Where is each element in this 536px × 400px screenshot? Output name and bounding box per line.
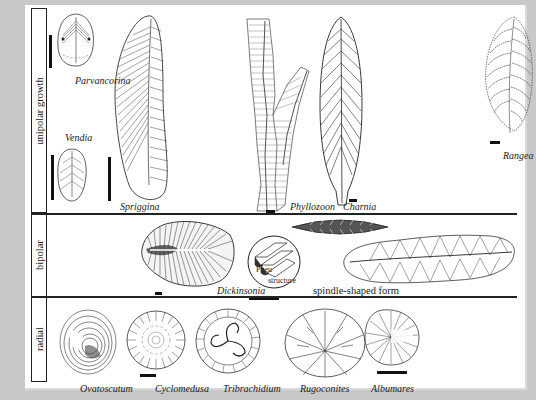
albumares-illustration (363, 307, 421, 367)
row-label-text: radial (34, 327, 45, 351)
scale-bar (490, 141, 500, 144)
spriggina-illustration (105, 13, 175, 205)
caption-albumares: Albumares (371, 383, 414, 394)
ovatoscutum-illustration (55, 306, 117, 376)
row-label-text: bipolar (34, 240, 45, 270)
caption-rangea: Rangea (503, 150, 534, 161)
rangea-illustration (480, 15, 536, 135)
scale-bar (51, 155, 54, 200)
tribrachidium-illustration (193, 307, 263, 375)
row-divider-1 (31, 213, 517, 215)
scale-bar (108, 157, 111, 201)
caption-pneu-line1: Pneu (256, 265, 272, 274)
scale-bar (155, 292, 162, 295)
dickinsonia-illustration (138, 219, 238, 289)
parvancorina-illustration (55, 11, 97, 69)
row-label-radial: radial (31, 296, 47, 382)
caption-tribrachidium: Tribrachidium (223, 383, 281, 394)
scale-bar (249, 298, 279, 300)
spindle-large-illustration (340, 230, 518, 290)
caption-vendia: Vendia (65, 132, 92, 143)
row-label-bipolar: bipolar (31, 213, 47, 297)
phyllozoon-illustration (243, 15, 323, 213)
caption-charnia: Charnia (343, 201, 376, 212)
charnia-illustration (316, 15, 366, 207)
caption-spriggina: Spriggina (120, 201, 159, 212)
rugoconites-illustration (283, 307, 367, 381)
scale-bar (49, 35, 52, 68)
scale-bar (140, 374, 156, 377)
row-label-text: unipolar growth (34, 77, 45, 144)
vendia-illustration (55, 147, 89, 203)
figure-panel: unipolar growth bipolar radial Parvancor… (25, 5, 527, 390)
caption-cyclomedusa: Cyclomedusa (155, 383, 209, 394)
caption-rugoconites: Rugoconites (300, 383, 349, 394)
caption-spindle: spindle-shaped form (313, 285, 399, 296)
scale-bar (377, 371, 407, 374)
caption-pneu-line2: structure (268, 276, 296, 285)
caption-ovatoscutum: Ovatoscutum (80, 383, 133, 394)
cyclomedusa-illustration (125, 308, 187, 372)
row-label-unipolar: unipolar growth (31, 8, 47, 213)
scale-bar (266, 210, 275, 213)
